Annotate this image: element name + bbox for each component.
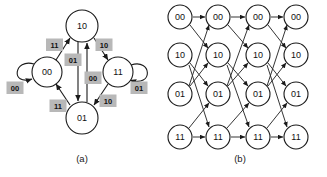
trellis-node-c3-r1: 10 bbox=[284, 43, 308, 67]
edge-tag-00-center-right: 00 bbox=[85, 72, 102, 85]
trellis-node-label: 11 bbox=[213, 132, 222, 142]
trellis-node-label: 01 bbox=[253, 89, 263, 99]
trellis-node-c0-r2: 01 bbox=[168, 82, 192, 106]
trellis-node-c0-r3: 11 bbox=[168, 125, 192, 149]
edge-tag-label: 11 bbox=[51, 41, 59, 50]
trellis-node-c3-r2: 01 bbox=[284, 82, 308, 106]
edge-tag-10-lower-right: 10 bbox=[100, 95, 117, 108]
trellis-node-c1-r1: 10 bbox=[206, 43, 230, 67]
trellis-node-c2-r2: 01 bbox=[246, 82, 270, 106]
trellis-node-c1-r3: 11 bbox=[206, 125, 230, 149]
trellis-node-label: 00 bbox=[213, 12, 223, 22]
edge-tag-10-upper-right: 10 bbox=[96, 39, 113, 52]
trellis-node-c3-r3: 11 bbox=[284, 125, 308, 149]
trellis-node-c2-r3: 11 bbox=[246, 125, 270, 149]
panel-b-canvas: 00 00 00 00 10 10 bbox=[164, 0, 327, 177]
panel-a-caption: (a) bbox=[76, 153, 88, 164]
edge-tag-label: 10 bbox=[100, 41, 108, 50]
trellis-node-label: 01 bbox=[291, 89, 301, 99]
edge-tag-label: 10 bbox=[104, 97, 112, 106]
trellis-stage-1 bbox=[189, 17, 209, 137]
state-node-11-label: 11 bbox=[113, 67, 122, 77]
state-node-00-label: 00 bbox=[42, 67, 52, 77]
state-node-01: 01 bbox=[66, 102, 98, 134]
trellis-node-c2-r0: 00 bbox=[246, 5, 270, 29]
trellis-node-label: 00 bbox=[253, 12, 263, 22]
trellis-node-label: 00 bbox=[175, 12, 185, 22]
trellis-node-label: 11 bbox=[291, 132, 300, 142]
trellis-node-label: 10 bbox=[175, 50, 185, 60]
trellis-stage-2 bbox=[227, 17, 249, 137]
figure-container: 10 00 11 01 11 01 bbox=[0, 0, 327, 177]
trellis-node-label: 10 bbox=[291, 50, 301, 60]
trellis-node-label: 11 bbox=[253, 132, 262, 142]
edge-tag-label: 11 bbox=[54, 102, 62, 111]
state-node-10-label: 10 bbox=[77, 21, 87, 31]
trellis-node-label: 00 bbox=[291, 12, 301, 22]
edge-tag-label: 01 bbox=[135, 84, 143, 93]
trellis-node-label: 10 bbox=[253, 50, 263, 60]
trellis-node-c3-r0: 00 bbox=[284, 5, 308, 29]
panel-a-state-diagram: 10 00 11 01 11 01 bbox=[0, 0, 164, 177]
panel-a-canvas: 10 00 11 01 11 01 bbox=[0, 0, 164, 177]
state-node-11: 11 bbox=[103, 57, 133, 87]
edge-tag-label: 00 bbox=[11, 84, 19, 93]
edge-tag-label: 00 bbox=[89, 74, 97, 83]
trellis-node-c0-r1: 10 bbox=[168, 43, 192, 67]
edge-tag-11-upper-left: 11 bbox=[46, 39, 63, 52]
state-node-00: 00 bbox=[32, 57, 62, 87]
edge-tag-01-center-left: 01 bbox=[65, 54, 82, 67]
trellis-node-c1-r2: 01 bbox=[206, 82, 230, 106]
trellis-node-label: 11 bbox=[175, 132, 184, 142]
trellis-node-label: 01 bbox=[175, 89, 185, 99]
edge-tag-00-far-left: 00 bbox=[7, 82, 24, 95]
trellis-node-label: 10 bbox=[213, 50, 223, 60]
trellis-node-label: 01 bbox=[213, 89, 223, 99]
panel-b-caption: (b) bbox=[234, 153, 246, 164]
state-node-01-label: 01 bbox=[77, 113, 87, 123]
edge-tag-11-lower-left: 11 bbox=[50, 100, 67, 113]
state-node-10: 10 bbox=[66, 10, 98, 42]
edge-tag-01-far-right: 01 bbox=[131, 82, 148, 95]
trellis-stage-3 bbox=[267, 17, 287, 137]
edge-tag-label: 01 bbox=[69, 56, 77, 65]
panel-b-trellis-diagram: 00 00 00 00 10 10 bbox=[164, 0, 327, 177]
trellis-node-c1-r0: 00 bbox=[206, 5, 230, 29]
trellis-node-c0-r0: 00 bbox=[168, 5, 192, 29]
trellis-node-c2-r1: 10 bbox=[246, 43, 270, 67]
